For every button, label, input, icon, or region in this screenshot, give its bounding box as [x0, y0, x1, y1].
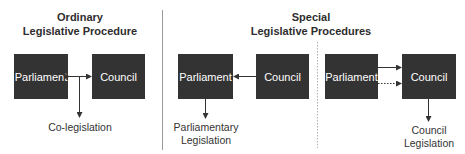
outcome-line1: Council — [398, 124, 460, 137]
outcome-line2: Legislation — [165, 134, 247, 147]
parliamentary-legislation-label: Parliamentary Legislation — [165, 121, 247, 147]
outcome-line2: Legislation — [398, 137, 460, 150]
council-legislation-label: Council Legislation — [398, 124, 460, 150]
co-legislation-label: Co-legislation — [30, 121, 130, 134]
outcome-line1: Parliamentary — [165, 121, 247, 134]
